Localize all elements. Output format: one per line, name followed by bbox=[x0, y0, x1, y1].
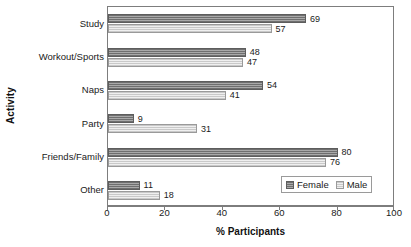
bar-value-label: 69 bbox=[310, 14, 320, 24]
legend-label: Male bbox=[347, 179, 368, 190]
x-axis-tick-label: 100 bbox=[386, 207, 402, 218]
x-axis-tick-label: 80 bbox=[331, 207, 342, 218]
bar-value-label: 9 bbox=[138, 114, 143, 124]
bar-value-label: 47 bbox=[247, 57, 257, 67]
bar-chart: Activity StudyWorkout/SportsNapsPartyFri… bbox=[0, 0, 411, 247]
bar-value-label: 57 bbox=[276, 24, 286, 34]
bar-female-workout-sports bbox=[108, 48, 246, 57]
y-axis-title: Activity bbox=[2, 0, 18, 210]
bar-male-study bbox=[108, 24, 272, 33]
bar-female-party bbox=[108, 114, 134, 123]
bar-male-party bbox=[108, 124, 197, 133]
x-axis-tick-label: 60 bbox=[274, 207, 285, 218]
category-label-friends-family: Friends/Family bbox=[18, 151, 104, 162]
y-axis-category-labels: StudyWorkout/SportsNapsPartyFriends/Fami… bbox=[18, 6, 104, 206]
bar-female-friends-family bbox=[108, 148, 338, 157]
x-axis-tick-label: 0 bbox=[104, 207, 109, 218]
category-label-naps: Naps bbox=[18, 84, 104, 95]
legend-label: Female bbox=[297, 179, 329, 190]
bar-value-label: 41 bbox=[230, 90, 240, 100]
bar-female-study bbox=[108, 14, 306, 23]
x-axis-line bbox=[107, 206, 394, 207]
bar-value-label: 48 bbox=[250, 47, 260, 57]
category-label-study: Study bbox=[18, 17, 104, 28]
legend-item-female[interactable]: Female bbox=[286, 179, 329, 190]
bar-value-label: 76 bbox=[330, 157, 340, 167]
bar-male-other bbox=[108, 191, 160, 200]
chart-legend: FemaleMale bbox=[281, 176, 372, 193]
category-label-party: Party bbox=[18, 117, 104, 128]
bar-male-naps bbox=[108, 91, 226, 100]
bar-female-other bbox=[108, 181, 140, 190]
legend-item-male[interactable]: Male bbox=[336, 179, 368, 190]
bar-value-label: 11 bbox=[144, 180, 153, 190]
bar-male-friends-family bbox=[108, 158, 326, 167]
legend-swatch-icon bbox=[286, 181, 294, 189]
x-axis-title: % Participants bbox=[107, 226, 394, 237]
legend-swatch-icon bbox=[336, 181, 344, 189]
category-label-other: Other bbox=[18, 184, 104, 195]
y-axis-title-label: Activity bbox=[5, 87, 16, 124]
category-label-workout-sports: Workout/Sports bbox=[18, 51, 104, 62]
bar-value-label: 31 bbox=[201, 124, 211, 134]
bar-value-label: 80 bbox=[342, 147, 352, 157]
bar-male-workout-sports bbox=[108, 58, 243, 67]
x-axis-tick-label: 20 bbox=[159, 207, 170, 218]
bar-female-naps bbox=[108, 81, 263, 90]
x-axis-tick-label: 40 bbox=[217, 207, 228, 218]
bar-value-label: 18 bbox=[164, 190, 174, 200]
bar-value-label: 54 bbox=[267, 80, 277, 90]
